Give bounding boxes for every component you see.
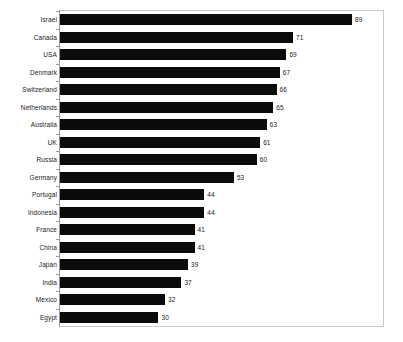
bar-row: Portugal44: [0, 186, 403, 204]
bar: [60, 102, 273, 113]
bar-category-label: Switzerland: [1, 84, 57, 95]
bar-category-label: Israel: [1, 14, 57, 25]
bar-row: Russia60: [0, 151, 403, 169]
category-axis-tick: [56, 309, 59, 310]
bar-value-label: 65: [276, 103, 283, 113]
bar-row: Mexico32: [0, 291, 403, 309]
category-axis-tick: [56, 239, 59, 240]
bar: [60, 67, 280, 78]
bar: [60, 207, 204, 218]
bar-value-label: 61: [263, 138, 270, 148]
bar-value-label: 30: [161, 313, 168, 323]
bar-value-label: 69: [289, 50, 296, 60]
bar: [60, 119, 267, 130]
bar-category-label: Netherlands: [1, 102, 57, 113]
category-axis-tick: [56, 204, 59, 205]
bar-value-label: 53: [237, 173, 244, 183]
bar: [60, 312, 158, 323]
bar-value-label: 60: [260, 155, 267, 165]
bar-value-label: 71: [296, 33, 303, 43]
bar-row: Switzerland66: [0, 81, 403, 99]
bar-value-label: 39: [191, 260, 198, 270]
bar: [60, 294, 165, 305]
bar-category-label: Russia: [1, 154, 57, 165]
bar: [60, 137, 260, 148]
category-axis-tick: [56, 99, 59, 100]
bar-value-label: 67: [283, 68, 290, 78]
category-axis-tick: [56, 186, 59, 187]
bar-row: UK61: [0, 134, 403, 152]
bar: [60, 259, 188, 270]
bar-value-label: 32: [168, 295, 175, 305]
bar-row: India37: [0, 274, 403, 292]
bar-category-label: Australia: [1, 119, 57, 130]
bar-category-label: Denmark: [1, 67, 57, 78]
bar-category-label: China: [1, 242, 57, 253]
bar: [60, 49, 286, 60]
category-axis-tick: [56, 274, 59, 275]
bar: [60, 189, 204, 200]
bar-category-label: USA: [1, 49, 57, 60]
bar: [60, 84, 277, 95]
bar-category-label: Egypt: [1, 312, 57, 323]
bar-chart: Israel89Canada71USA69Denmark67Switzerlan…: [0, 0, 403, 342]
bar-value-label: 63: [270, 120, 277, 130]
bar-category-label: Indonesia: [1, 207, 57, 218]
bar-category-label: India: [1, 277, 57, 288]
category-axis-tick: [56, 29, 59, 30]
bar: [60, 154, 257, 165]
bar-row: Netherlands65: [0, 99, 403, 117]
bar-row: France41: [0, 221, 403, 239]
bar-value-label: 37: [184, 278, 191, 288]
category-axis-tick: [56, 116, 59, 117]
bar: [60, 32, 293, 43]
bar-category-label: UK: [1, 137, 57, 148]
category-axis-tick: [56, 134, 59, 135]
bar-row: China41: [0, 239, 403, 257]
bars-layer: Israel89Canada71USA69Denmark67Switzerlan…: [0, 0, 403, 342]
category-axis-tick: [56, 64, 59, 65]
bar-category-label: Mexico: [1, 294, 57, 305]
bar-value-label: 41: [198, 243, 205, 253]
bar-row: Denmark67: [0, 64, 403, 82]
bar-category-label: Portugal: [1, 189, 57, 200]
bar: [60, 224, 195, 235]
category-axis-tick: [56, 81, 59, 82]
bar-row: Canada71: [0, 29, 403, 47]
bar-row: Israel89: [0, 11, 403, 29]
bar-category-label: Japan: [1, 259, 57, 270]
bar-category-label: France: [1, 224, 57, 235]
bar-value-label: 44: [207, 208, 214, 218]
bar: [60, 14, 352, 25]
bar-row: Indonesia44: [0, 204, 403, 222]
bar: [60, 242, 195, 253]
bar-row: Japan39: [0, 256, 403, 274]
category-axis-tick: [56, 256, 59, 257]
bar-value-label: 89: [355, 15, 362, 25]
category-axis-tick: [56, 221, 59, 222]
category-axis-tick: [56, 291, 59, 292]
bar-row: USA69: [0, 46, 403, 64]
category-axis-tick: [56, 151, 59, 152]
bar: [60, 277, 181, 288]
bar: [60, 172, 234, 183]
category-axis-tick: [56, 46, 59, 47]
bar-row: Germany53: [0, 169, 403, 187]
bar-category-label: Canada: [1, 32, 57, 43]
category-axis-tick: [56, 169, 59, 170]
bar-value-label: 41: [198, 225, 205, 235]
bar-row: Australia63: [0, 116, 403, 134]
category-axis-tick: [56, 11, 59, 12]
bar-row: Egypt30: [0, 309, 403, 327]
bar-value-label: 44: [207, 190, 214, 200]
bar-category-label: Germany: [1, 172, 57, 183]
bar-value-label: 66: [280, 85, 287, 95]
